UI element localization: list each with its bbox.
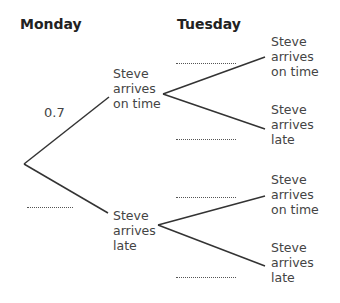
outcome-monday-late: Steve arrives late (113, 208, 156, 253)
blank-probability-monday-late[interactable] (27, 207, 73, 208)
outcome-tuesday-late-ontime: Steve arrives on time (271, 172, 319, 217)
blank-probability-late-late[interactable] (176, 277, 236, 278)
branch-ontime-late (163, 94, 265, 129)
outcome-line: late (271, 270, 314, 285)
branch-late-late (158, 225, 265, 266)
branch-monday-on-time (24, 97, 109, 164)
outcome-line: late (271, 132, 314, 147)
outcome-line: on time (113, 96, 161, 111)
outcome-tuesday-late-late: Steve arrives late (271, 240, 314, 285)
branch-late-ontime (158, 196, 265, 225)
outcome-tuesday-ontime-ontime: Steve arrives on time (271, 34, 319, 79)
outcome-line: Steve (271, 172, 319, 187)
blank-probability-ontime-ontime[interactable] (176, 63, 236, 64)
outcome-tuesday-ontime-late: Steve arrives late (271, 102, 314, 147)
outcome-line: Steve (271, 34, 319, 49)
blank-probability-ontime-late[interactable] (176, 139, 236, 140)
outcome-line: Steve (271, 102, 314, 117)
outcome-line: arrives (113, 223, 156, 238)
branch-monday-late (24, 164, 108, 213)
outcome-line: Steve (113, 66, 161, 81)
outcome-line: arrives (271, 49, 319, 64)
outcome-line: on time (271, 64, 319, 79)
outcome-line: Steve (113, 208, 156, 223)
outcome-line: arrives (271, 117, 314, 132)
outcome-line: late (113, 238, 156, 253)
probability-monday-on-time: 0.7 (44, 105, 65, 120)
outcome-line: on time (271, 202, 319, 217)
outcome-line: Steve (271, 240, 314, 255)
outcome-line: arrives (271, 187, 319, 202)
outcome-line: arrives (113, 81, 161, 96)
outcome-monday-on-time: Steve arrives on time (113, 66, 161, 111)
blank-probability-late-ontime[interactable] (176, 197, 236, 198)
outcome-line: arrives (271, 255, 314, 270)
